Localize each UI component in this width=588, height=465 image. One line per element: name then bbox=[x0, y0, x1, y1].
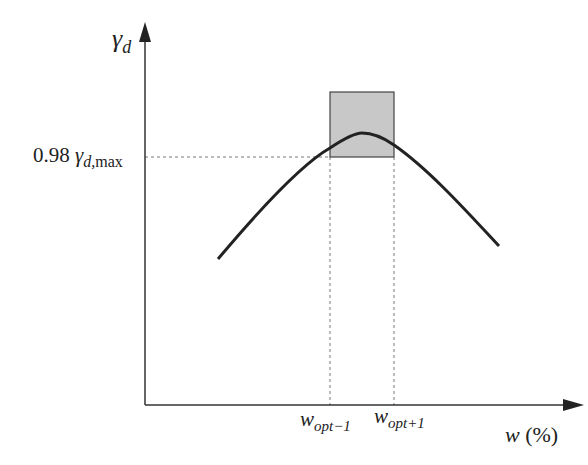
x-tick-label-2: wopt+1 bbox=[374, 404, 425, 432]
x-axis-label: w (%) bbox=[505, 422, 558, 448]
acceptable-range-box bbox=[330, 92, 394, 157]
y-axis-label: γd bbox=[112, 24, 131, 58]
compaction-diagram bbox=[0, 0, 588, 465]
x-axis-arrow bbox=[563, 399, 584, 411]
y-reference-label: 0.98 γd,max bbox=[33, 143, 123, 171]
x-tick-label-1: wopt−1 bbox=[300, 407, 351, 435]
y-axis-arrow bbox=[139, 22, 151, 42]
